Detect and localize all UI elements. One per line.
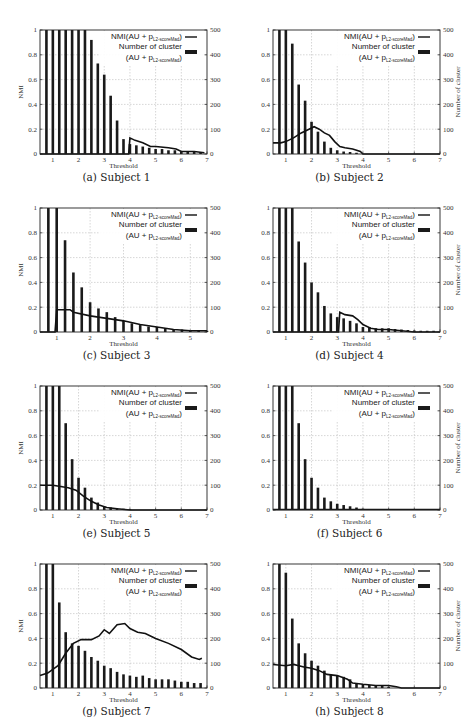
right-tick-label: 300 [210,76,221,84]
right-tick-label: 100 [443,660,454,668]
right-tick-label: 200 [210,457,221,465]
right-tick-label: 200 [443,457,454,465]
left-tick-label: 1 [34,560,38,568]
legend: NMI(AU + pL2-scoreMad)Number of cluster(… [333,565,437,599]
subplot-h: 00.20.40.60.8101002003004005001234567Thr… [233,534,466,710]
bar [103,666,106,688]
left-tick-label: 0.6 [261,254,270,262]
bar [304,101,307,154]
left-tick-label: 0.2 [28,482,37,490]
bar [97,63,100,154]
left-tick-label: 0 [267,150,271,158]
bar [90,40,93,154]
right-axis-label: Number of cluster [454,66,462,118]
left-tick-label: 0.8 [261,229,270,237]
subplot-svg: 00.20.40.60.8101002003004005001234567Thr… [0,356,233,524]
bar [161,679,164,688]
bar [89,302,92,332]
bar [141,676,144,688]
left-tick-label: 0.2 [261,126,270,134]
bar [355,323,358,332]
left-tick-label: 0.8 [28,585,37,593]
bar [109,668,112,688]
subplot-g: 00.20.40.60.8101002003004005001234567Thr… [0,534,233,710]
subplot-svg: 00.20.40.60.81010020030040050012345Thres… [0,178,233,346]
legend: NMI(AU + pL2-scoreMad)Number of cluster(… [100,387,204,421]
left-tick-label: 0 [34,328,38,336]
bar [186,682,189,688]
x-tick-label: 1 [284,156,288,164]
bar [278,208,281,332]
right-tick-label: 0 [443,328,447,336]
subplot-a: 00.20.40.60.8101002003004005001234567Thr… [0,0,233,176]
bar [109,96,112,154]
x-tick-label: 5 [387,156,391,164]
left-tick-label: 1 [267,560,271,568]
x-tick-label: 5 [387,512,391,520]
x-axis-label: Threshold [342,162,371,170]
left-tick-label: 0.4 [261,101,270,109]
subplot-e: 00.20.40.60.8101002003004005001234567Thr… [0,356,233,532]
legend-bar-label-line1: Number of cluster [119,42,182,51]
bar [64,423,67,510]
subplot-svg: 00.20.40.60.8101002003004005001234567Thr… [233,178,466,346]
right-tick-label: 500 [443,26,454,34]
bar [84,30,87,154]
subplot-c: 00.20.40.60.81010020030040050012345Thres… [0,178,233,354]
x-tick-label: 3 [102,156,106,164]
bar [278,564,281,688]
bar [310,282,313,332]
legend: NMI(AU + pL2-scoreMad)Number of cluster(… [333,209,437,243]
legend-bar-label-line1: Number of cluster [119,398,182,407]
subplot-f: 00.20.40.60.8101002003004005001234567Thr… [233,356,466,532]
left-tick-label: 0.6 [28,432,37,440]
left-tick-label: 0.2 [261,660,270,668]
x-tick-label: 7 [205,690,209,698]
bar [310,478,313,510]
right-tick-label: 0 [443,150,447,158]
right-tick-label: 300 [443,254,454,262]
right-tick-label: 400 [210,407,221,415]
right-tick-label: 500 [443,382,454,390]
right-tick-label: 400 [210,51,221,59]
left-tick-label: 0 [267,328,271,336]
bar [71,643,74,688]
bar [174,681,177,688]
left-tick-label: 0 [267,684,271,692]
left-tick-label: 0.8 [261,585,270,593]
right-tick-label: 100 [210,660,221,668]
bar [304,653,307,688]
left-tick-label: 0 [34,150,38,158]
bar [317,132,320,154]
left-tick-label: 0 [267,506,271,514]
legend-bar-swatch [185,228,197,232]
left-tick-label: 0.8 [261,51,270,59]
legend-bar-label-line1: Number of cluster [352,398,415,407]
subplot-svg: 00.20.40.60.8101002003004005001234567Thr… [0,0,233,168]
right-tick-label: 200 [210,101,221,109]
bar [64,632,67,688]
right-tick-label: 100 [443,482,454,490]
right-tick-label: 400 [210,585,221,593]
bar [291,208,294,332]
left-tick-label: 0 [34,506,38,514]
subplot-d: 00.20.40.60.8101002003004005001234567Thr… [233,178,466,354]
left-tick-label: 0.6 [261,76,270,84]
bar [116,121,119,154]
right-tick-label: 300 [443,432,454,440]
x-axis-label: Threshold [109,340,138,348]
left-axis-label: NMI [17,619,25,633]
bar [323,306,326,332]
x-tick-label: 7 [205,156,209,164]
left-tick-label: 1 [34,382,38,390]
subplot-svg: 00.20.40.60.8101002003004005001234567Thr… [233,356,466,524]
bar [349,321,352,332]
left-tick-label: 0.4 [261,457,270,465]
bar [147,327,150,332]
x-tick-label: 1 [51,512,55,520]
x-tick-label: 6 [413,334,417,342]
bar [45,386,48,510]
x-tick-label: 1 [284,334,288,342]
right-tick-label: 0 [443,506,447,514]
